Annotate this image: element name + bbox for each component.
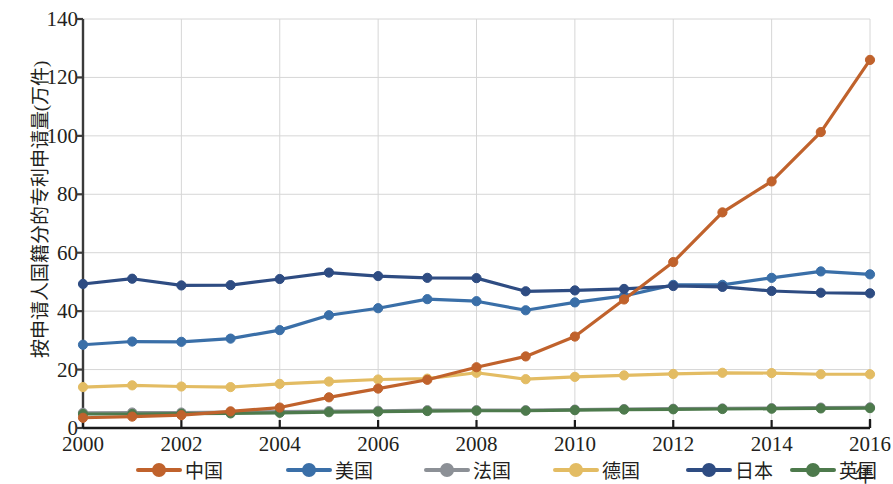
- data-point: [472, 363, 481, 372]
- data-point: [423, 406, 432, 415]
- data-point: [521, 406, 530, 415]
- data-point: [816, 127, 825, 136]
- data-point: [521, 375, 530, 384]
- legend-label: 中国: [185, 456, 223, 483]
- legend-item-英国[interactable]: 英国: [790, 455, 877, 484]
- data-point: [570, 332, 579, 341]
- x-axis-tick-label: 2012: [652, 432, 694, 457]
- x-axis-tick-label: 2000: [62, 432, 104, 457]
- legend-item-法国[interactable]: 法国: [424, 455, 511, 484]
- legend-marker-dot-icon: [806, 463, 820, 477]
- data-point: [128, 337, 137, 346]
- data-point: [521, 352, 530, 361]
- data-point: [619, 295, 628, 304]
- legend-swatch-icon: [424, 463, 470, 477]
- data-point: [374, 304, 383, 313]
- patent-applications-line-chart: 按申请人国籍分的专利申请量(万件) 020406080100120140 200…: [0, 0, 893, 484]
- data-point: [669, 369, 678, 378]
- data-point: [472, 297, 481, 306]
- legend-marker-dot-icon: [702, 463, 716, 477]
- data-point: [816, 404, 825, 413]
- data-point: [865, 289, 874, 298]
- data-point: [619, 371, 628, 380]
- data-point: [374, 375, 383, 384]
- data-point: [78, 413, 87, 422]
- data-point: [423, 375, 432, 384]
- data-point: [718, 404, 727, 413]
- data-point: [865, 55, 874, 64]
- legend-label: 美国: [335, 456, 373, 483]
- data-point: [275, 403, 284, 412]
- legend-swatch-icon: [686, 463, 732, 477]
- data-point: [865, 270, 874, 279]
- data-point: [570, 286, 579, 295]
- data-point: [718, 368, 727, 377]
- data-point: [669, 405, 678, 414]
- data-point: [570, 298, 579, 307]
- data-point: [275, 274, 284, 283]
- data-point: [128, 381, 137, 390]
- data-point: [78, 383, 87, 392]
- x-axis-tick-label: 2016: [849, 432, 891, 457]
- legend-swatch-icon: [136, 463, 182, 477]
- x-axis-tick-label: 2004: [259, 432, 301, 457]
- data-point: [177, 382, 186, 391]
- legend-label: 英国: [839, 456, 877, 483]
- legend-label: 德国: [602, 456, 640, 483]
- x-axis-tick-label: 2002: [160, 432, 202, 457]
- data-point: [816, 370, 825, 379]
- chart-legend: 中国美国法国德国日本英国: [0, 455, 893, 484]
- data-point: [718, 208, 727, 217]
- x-axis-tick-label: 2008: [456, 432, 498, 457]
- data-point: [767, 286, 776, 295]
- data-point: [619, 405, 628, 414]
- data-point: [324, 393, 333, 402]
- data-point: [374, 384, 383, 393]
- data-point: [669, 281, 678, 290]
- legend-item-日本[interactable]: 日本: [686, 455, 773, 484]
- data-point: [78, 340, 87, 349]
- data-point: [374, 271, 383, 280]
- legend-item-美国[interactable]: 美国: [286, 455, 373, 484]
- legend-marker-dot-icon: [152, 463, 166, 477]
- x-axis-tick-label: 2014: [751, 432, 793, 457]
- plot-canvas: [0, 0, 893, 484]
- data-point: [423, 273, 432, 282]
- data-point: [816, 267, 825, 276]
- data-point: [570, 406, 579, 415]
- data-point: [472, 274, 481, 283]
- legend-marker-dot-icon: [440, 463, 454, 477]
- data-point: [767, 177, 776, 186]
- data-point: [521, 287, 530, 296]
- data-point: [275, 379, 284, 388]
- data-point: [865, 404, 874, 413]
- legend-marker-dot-icon: [302, 463, 316, 477]
- legend-swatch-icon: [286, 463, 332, 477]
- x-axis-tick-label: 2006: [357, 432, 399, 457]
- data-point: [718, 282, 727, 291]
- data-point: [324, 377, 333, 386]
- data-point: [669, 257, 678, 266]
- data-point: [177, 281, 186, 290]
- legend-item-德国[interactable]: 德国: [553, 455, 640, 484]
- data-point: [767, 404, 776, 413]
- data-point: [521, 306, 530, 315]
- data-point: [374, 407, 383, 416]
- data-point: [767, 273, 776, 282]
- data-point: [177, 337, 186, 346]
- data-point: [619, 284, 628, 293]
- data-point: [570, 372, 579, 381]
- legend-label: 日本: [735, 456, 773, 483]
- data-point: [816, 288, 825, 297]
- data-point: [177, 411, 186, 420]
- data-point: [226, 383, 235, 392]
- legend-item-中国[interactable]: 中国: [136, 455, 223, 484]
- data-point: [423, 295, 432, 304]
- legend-swatch-icon: [553, 463, 599, 477]
- data-point: [226, 281, 235, 290]
- data-point: [78, 279, 87, 288]
- data-point: [128, 412, 137, 421]
- legend-marker-dot-icon: [569, 463, 583, 477]
- legend-label: 法国: [473, 456, 511, 483]
- x-axis-tick-label: 2010: [554, 432, 596, 457]
